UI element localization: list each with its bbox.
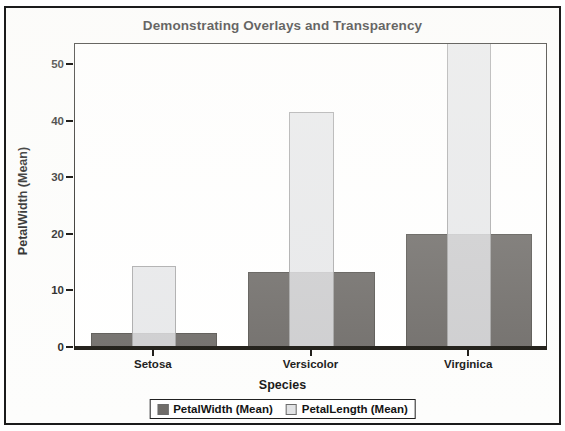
x-axis-tick-setosa <box>152 349 154 356</box>
y-axis-tick-label-50: 50 <box>10 58 64 70</box>
x-axis-title: Species <box>6 378 559 392</box>
legend-swatch-icon <box>286 404 297 415</box>
y-axis-tick-label-40: 40 <box>10 115 64 127</box>
bar-virginica-petallength <box>447 43 491 347</box>
legend-entry-petalwidth[interactable]: PetalWidth (Mean) <box>157 403 273 415</box>
y-axis-tick-label-20: 20 <box>10 228 64 240</box>
legend-entry-petallength[interactable]: PetalLength (Mean) <box>286 403 408 415</box>
y-axis-tick-label-0: 0 <box>10 341 64 353</box>
y-axis-tick-label-30: 30 <box>10 171 64 183</box>
y-axis-tick-30 <box>66 176 73 178</box>
x-axis-tick-versicolor <box>310 349 312 356</box>
legend-swatch-icon <box>157 404 168 415</box>
y-axis-tick-0 <box>66 346 73 348</box>
chart-frame: Demonstrating Overlays and Transparency … <box>4 6 561 425</box>
y-axis-tick-label-10: 10 <box>10 284 64 296</box>
plot-area <box>74 43 547 347</box>
chart-title: Demonstrating Overlays and Transparency <box>6 18 559 33</box>
y-axis-tick-40 <box>66 120 73 122</box>
legend-label: PetalWidth (Mean) <box>173 403 273 415</box>
legend-label: PetalLength (Mean) <box>302 403 408 415</box>
y-axis-tick-10 <box>66 289 73 291</box>
x-axis-label-versicolor: Versicolor <box>241 358 381 370</box>
x-axis-label-setosa: Setosa <box>83 358 223 370</box>
x-axis-tick-virginica <box>467 349 469 356</box>
chart-legend: PetalWidth (Mean)PetalLength (Mean) <box>149 399 416 419</box>
bar-versicolor-petallength <box>289 112 333 347</box>
y-axis-tick-20 <box>66 233 73 235</box>
y-axis-tick-labels: 01020304050 <box>6 8 64 423</box>
bar-setosa-petallength <box>132 266 176 347</box>
y-axis-tick-50 <box>66 63 73 65</box>
x-axis-label-virginica: Virginica <box>398 358 538 370</box>
